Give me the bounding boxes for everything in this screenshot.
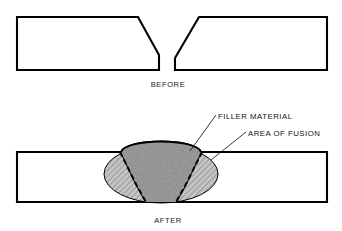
filler-material-label: FILLER MATERIAL [218, 112, 293, 121]
before-caption: BEFORE [151, 80, 186, 89]
before-panel: BEFORE [17, 17, 327, 89]
welding-joint-diagram: BEFORE AFTER FILLER MATERIAL [0, 0, 342, 231]
before-right-plate [175, 17, 327, 70]
diagram-canvas: BEFORE AFTER FILLER MATERIAL [0, 0, 342, 231]
after-caption: AFTER [154, 216, 182, 225]
before-left-plate [17, 17, 159, 70]
filler-material-leader-line [190, 115, 216, 151]
after-panel: AFTER [17, 142, 327, 226]
area-of-fusion-label: AREA OF FUSION [248, 129, 320, 138]
